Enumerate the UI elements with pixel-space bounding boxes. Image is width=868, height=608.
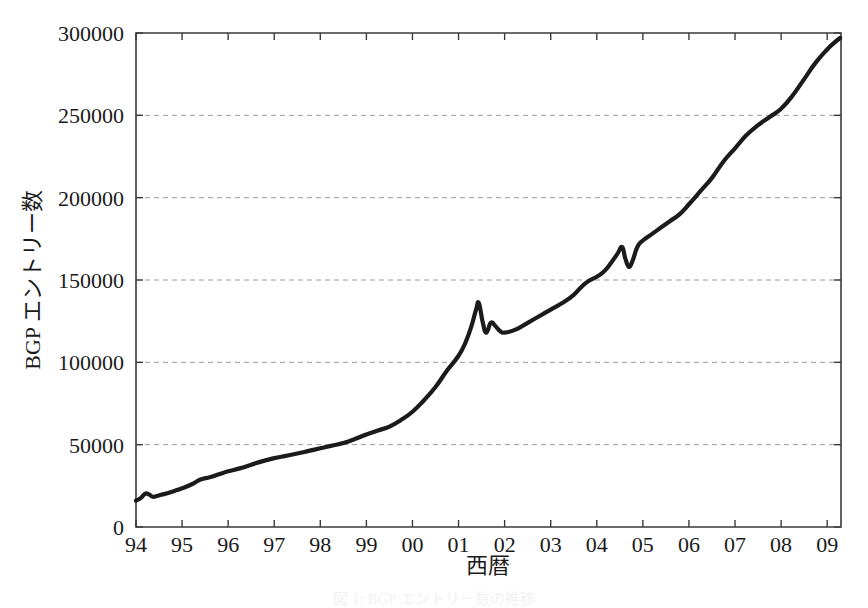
x-axis-tick-label: 03 [540,532,562,557]
x-axis-tick-label: 04 [586,532,608,557]
y-axis-tick-label: 250000 [58,103,124,128]
y-axis-tick-label: 200000 [58,186,124,211]
chart-figure: 050000100000150000200000250000300000 949… [0,0,868,608]
data-series-line [136,38,840,501]
x-axis-tick-label: 96 [217,532,239,557]
y-axis-tick-label: 150000 [58,268,124,293]
x-axis-tick-label: 07 [724,532,746,557]
y-axis-title: BGP エントリー数 [20,190,45,369]
figure-caption: 図 1: BGP エントリー数の推移 [333,591,535,607]
y-axis-tick-label: 300000 [58,21,124,46]
gridlines-group [136,115,841,444]
x-axis-tick-label: 06 [678,532,700,557]
x-axis-tick-label: 09 [816,532,838,557]
x-axis-tick-label: 95 [171,532,193,557]
x-axis-tick-label: 94 [125,532,147,557]
x-axis-tick-label: 97 [263,532,285,557]
x-axis-tick-label: 05 [632,532,654,557]
y-axis-tick-label: 0 [113,515,124,540]
bgp-entries-line-chart: 050000100000150000200000250000300000 949… [0,0,868,608]
x-axis-title: 西暦 [466,553,510,578]
x-axis-tick-label: 00 [401,532,423,557]
x-axis-tick-label: 98 [309,532,331,557]
x-axis-tick-label: 08 [770,532,792,557]
y-axis-tick-label: 50000 [69,433,124,458]
x-axis-tick-label: 99 [355,532,377,557]
y-axis-tick-labels-group: 050000100000150000200000250000300000 [58,21,124,540]
y-axis-tick-label: 100000 [58,350,124,375]
